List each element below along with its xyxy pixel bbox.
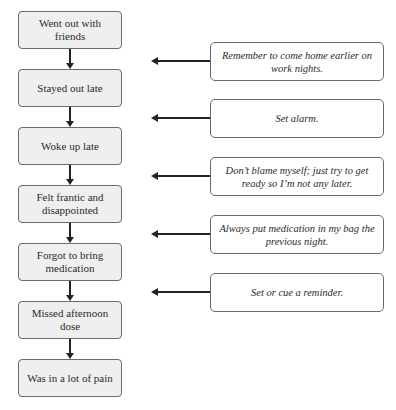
coping-label: Set or cue a reminder. bbox=[251, 286, 343, 299]
down-arrow-line bbox=[69, 339, 71, 353]
coping-label: Always put medication in my bag the prev… bbox=[219, 222, 375, 248]
coping-box-come-home-earlier: Remember to come home earlier on work ni… bbox=[210, 42, 384, 81]
event-label: Missed afternoon dose bbox=[23, 307, 117, 333]
event-label: Stayed out late bbox=[37, 82, 102, 95]
event-box-woke-late: Woke up late bbox=[18, 127, 122, 165]
coping-label: Remember to come home earlier on work ni… bbox=[219, 49, 375, 75]
down-arrow-line bbox=[69, 107, 71, 121]
left-arrow-head-icon bbox=[151, 114, 158, 122]
left-arrow-line bbox=[157, 233, 210, 235]
coping-box-dont-blame: Don’t blame myself; just try to get read… bbox=[210, 157, 384, 196]
down-arrow-line bbox=[69, 281, 71, 295]
event-box-stayed-out: Stayed out late bbox=[18, 69, 122, 107]
event-label: Was in a lot of pain bbox=[27, 372, 113, 385]
coping-box-set-alarm: Set alarm. bbox=[210, 99, 384, 138]
left-arrow-head-icon bbox=[151, 230, 158, 238]
event-box-forgot-medication: Forgot to bring medication bbox=[18, 243, 122, 281]
event-box-went-out: Went out with friends bbox=[18, 11, 122, 49]
left-arrow-line bbox=[157, 60, 210, 62]
event-label: Went out with friends bbox=[23, 17, 117, 43]
event-box-felt-frantic: Felt frantic and disappointed bbox=[18, 185, 122, 223]
event-box-in-pain: Was in a lot of pain bbox=[18, 359, 122, 397]
coping-box-pack-medication: Always put medication in my bag the prev… bbox=[210, 215, 384, 254]
left-arrow-line bbox=[157, 175, 210, 177]
coping-label: Set alarm. bbox=[275, 112, 318, 125]
left-arrow-head-icon bbox=[151, 288, 158, 296]
event-box-missed-dose: Missed afternoon dose bbox=[18, 301, 122, 339]
left-arrow-head-icon bbox=[151, 57, 158, 65]
down-arrow-line bbox=[69, 49, 71, 63]
left-arrow-line bbox=[157, 117, 210, 119]
coping-box-set-reminder: Set or cue a reminder. bbox=[210, 273, 384, 312]
left-arrow-head-icon bbox=[151, 172, 158, 180]
event-label: Felt frantic and disappointed bbox=[23, 191, 117, 217]
event-label: Woke up late bbox=[41, 140, 99, 153]
down-arrow-line bbox=[69, 165, 71, 179]
coping-label: Don’t blame myself; just try to get read… bbox=[219, 164, 375, 190]
left-arrow-line bbox=[157, 291, 210, 293]
event-label: Forgot to bring medication bbox=[23, 249, 117, 275]
down-arrow-line bbox=[69, 223, 71, 237]
